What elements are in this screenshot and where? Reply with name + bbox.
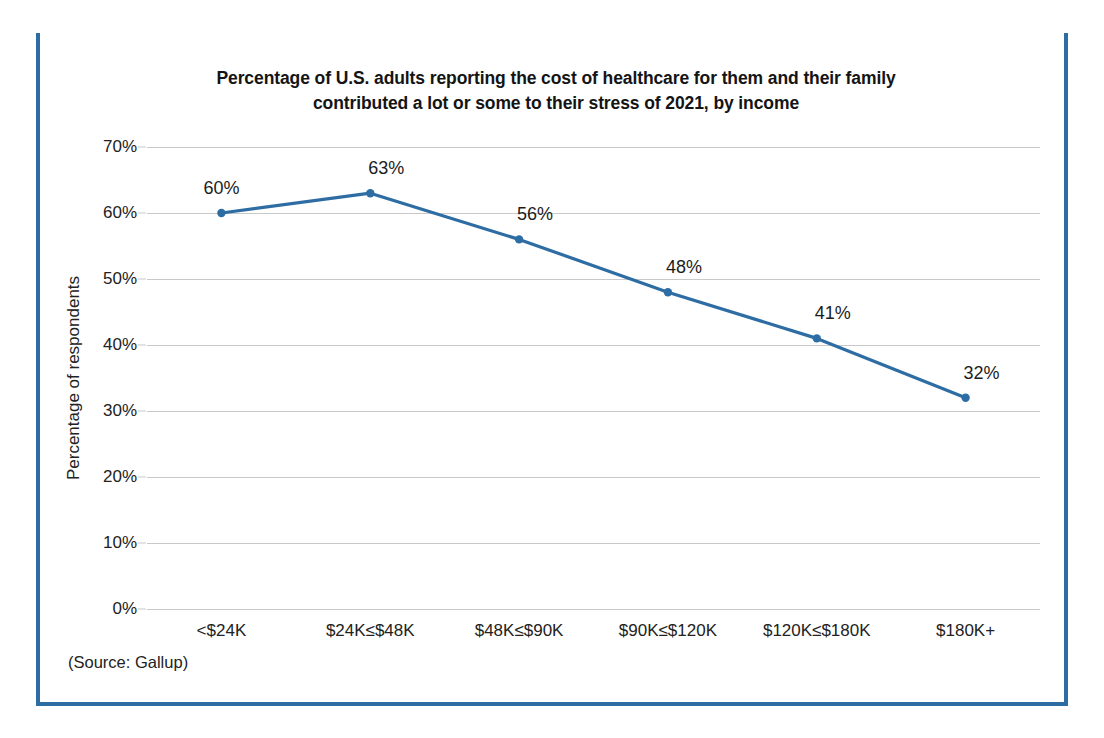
y-axis-tick-label: 50%: [103, 269, 137, 289]
series-line: [221, 193, 965, 398]
data-point-marker: [515, 235, 523, 243]
x-axis-tick-label: $120K≤$180K: [763, 621, 871, 641]
x-axis-tick-label: <$24K: [197, 621, 247, 641]
y-axis-tick-label: 0%: [112, 599, 137, 619]
y-axis-tick-mark: [138, 279, 146, 280]
chart-title-line-1: Percentage of U.S. adults reporting the …: [216, 68, 895, 88]
data-point-label: 63%: [368, 158, 404, 179]
y-axis-tick-label: 60%: [103, 203, 137, 223]
data-point-marker: [664, 288, 672, 296]
y-axis-tick-mark: [138, 345, 146, 346]
data-point-marker: [366, 189, 374, 197]
chart-card: Percentage of U.S. adults reporting the …: [36, 33, 1068, 706]
y-axis-tick-mark: [138, 213, 146, 214]
gridline: [147, 609, 1040, 610]
y-axis-title: Percentage of respondents: [62, 147, 86, 609]
y-axis-tick-mark: [138, 543, 146, 544]
source-note: (Source: Gallup): [68, 653, 188, 672]
y-axis-tick-label: 40%: [103, 335, 137, 355]
x-axis-tick-label: $24K≤$48K: [326, 621, 415, 641]
line-series: [147, 147, 1040, 609]
data-point-marker: [217, 209, 225, 217]
data-point-marker: [961, 394, 969, 402]
y-axis-title-label: Percentage of respondents: [64, 276, 84, 480]
data-point-label: 60%: [203, 178, 239, 199]
y-axis-tick-mark: [138, 147, 146, 148]
data-point-marker: [813, 334, 821, 342]
plot-area: 0%10%20%30%40%50%60%70% <$24K$24K≤$48K$4…: [147, 147, 1040, 609]
data-point-label: 32%: [964, 363, 1000, 384]
y-axis-tick-label: 10%: [103, 533, 137, 553]
y-axis-tick-mark: [138, 477, 146, 478]
data-point-label: 56%: [517, 204, 553, 225]
y-axis-tick-label: 70%: [103, 137, 137, 157]
chart-title-line-2: contributed a lot or some to their stres…: [126, 91, 986, 116]
data-point-label: 41%: [815, 303, 851, 324]
y-axis-tick-label: 30%: [103, 401, 137, 421]
x-axis-tick-label: $48K≤$90K: [475, 621, 564, 641]
y-axis-tick-mark: [138, 411, 146, 412]
chart-title: Percentage of U.S. adults reporting the …: [126, 66, 986, 116]
x-axis-tick-label: $180K+: [936, 621, 995, 641]
data-point-label: 48%: [666, 257, 702, 278]
y-axis-tick-mark: [138, 609, 146, 610]
y-axis-tick-label: 20%: [103, 467, 137, 487]
x-axis-tick-label: $90K≤$120K: [619, 621, 717, 641]
